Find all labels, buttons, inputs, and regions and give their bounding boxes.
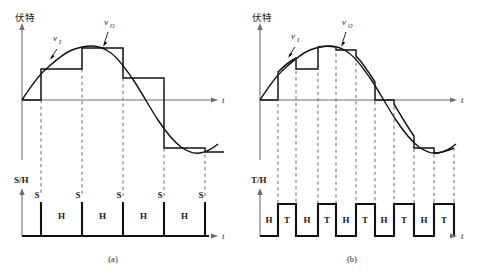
control-mark: T (324, 215, 330, 225)
sample-mark: S (198, 190, 203, 200)
sample-mark: S (34, 190, 39, 200)
panel-a-control-time-axis (22, 233, 218, 238)
panel-b-control-label: T/H (251, 175, 267, 185)
panel-a-output-sub: O (110, 22, 115, 29)
panel-a-sample-marks: S S S S S (34, 190, 203, 200)
panel-a-input-label-group: v I (50, 33, 62, 60)
panel-b-dashed-guides (278, 47, 454, 236)
panel-b-time-axis (260, 97, 457, 102)
control-mark: H (303, 215, 310, 225)
panel-a-y-axis-label: 伏特 (15, 12, 35, 23)
panel-a-input-label: v (53, 33, 57, 43)
panel-a-output-label: v (104, 17, 108, 27)
control-mark: H (342, 215, 349, 225)
control-mark: T (362, 215, 368, 225)
panel-a-dashed-guides (41, 69, 205, 196)
panel-b-control-t-label: t (461, 231, 464, 241)
panel-b-input-label-group: v I (288, 31, 300, 58)
hold-mark: H (58, 211, 65, 221)
panel-b-control-vertical-axis (257, 188, 262, 236)
panel-b-input-label: v (291, 31, 295, 41)
panel-a-time-axis (22, 97, 218, 102)
panel-a-input-sub: I (58, 38, 62, 45)
panel-b-output-label-group: v O (341, 17, 353, 47)
panel-a-t-label: t (222, 95, 225, 105)
waveform-diagram: 伏特 t v I (0, 0, 477, 276)
panel-a-vertical-axis (19, 23, 24, 160)
panel-b-input-sub: I (296, 36, 300, 43)
panel-b-output-sub: O (348, 22, 353, 29)
panel-b-y-axis-label: 伏特 (252, 12, 272, 23)
control-mark: H (380, 215, 387, 225)
control-mark: T (284, 215, 290, 225)
hold-mark: H (181, 211, 188, 221)
panel-a-control-vertical-axis (19, 188, 24, 236)
panel-a-output-label-group: v O (103, 17, 115, 47)
panel-b-output-label: v (342, 17, 346, 27)
hold-mark: H (99, 211, 106, 221)
panel-a-control-label: S/H (14, 175, 29, 185)
panel-a: 伏特 t v I (14, 12, 225, 264)
panel-b-vertical-axis (257, 23, 262, 160)
panel-b-t-label: t (461, 95, 464, 105)
control-mark: T (401, 215, 407, 225)
sample-mark: S (116, 190, 121, 200)
control-mark: T (441, 215, 447, 225)
control-mark: H (420, 215, 427, 225)
panel-b: 伏特 t (251, 12, 464, 264)
panel-a-caption: (a) (108, 254, 118, 264)
sample-mark: S (75, 190, 80, 200)
sample-mark: S (157, 190, 162, 200)
figure-container: 伏特 t v I (0, 0, 477, 276)
panel-a-control-t-label: t (222, 231, 225, 241)
panel-b-caption: (b) (347, 254, 357, 264)
hold-mark: H (140, 211, 147, 221)
control-mark: H (265, 215, 272, 225)
